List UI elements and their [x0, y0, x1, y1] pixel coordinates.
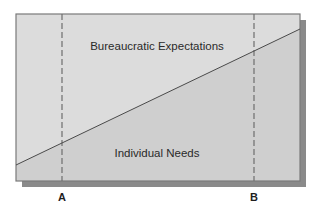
diagram-canvas	[0, 0, 317, 213]
marker-label-a: A	[58, 191, 66, 203]
lower-region-label: Individual Needs	[114, 147, 199, 159]
upper-region-label: Bureaucratic Expectations	[90, 40, 224, 52]
bureaucratic-individual-diagram: Bureaucratic Expectations Individual Nee…	[0, 0, 317, 213]
marker-label-b: B	[250, 191, 258, 203]
